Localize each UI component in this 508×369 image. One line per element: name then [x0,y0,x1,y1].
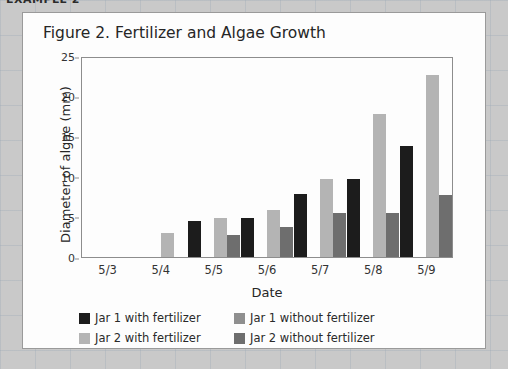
bar [439,195,452,257]
example-heading: EXAMPLE 2 [6,0,80,6]
x-axis-tick-label: 5/7 [294,263,347,277]
bar [347,179,360,257]
legend-swatch [234,313,245,324]
bar [227,235,240,258]
y-axis-tick-mark [75,258,79,259]
bar [320,179,333,257]
legend-swatch [234,333,245,344]
x-axis-tick-label: 5/9 [400,263,453,277]
legend-swatch [79,313,90,324]
chart-legend: Jar 1 with fertilizerJar 1 without ferti… [79,311,439,345]
chart-card: Figure 2. Fertilizer and Algae Growth 05… [22,12,486,349]
y-axis-tick-mark [75,57,79,58]
bar [280,227,293,257]
x-axis-tick-label: 5/3 [81,263,134,277]
x-axis-title: Date [81,285,453,300]
legend-label: Jar 2 with fertilizer [95,331,201,345]
bar [426,75,439,258]
bar [214,218,227,257]
y-axis-tick-label: 25 [61,51,75,64]
x-axis-tick-label: 5/5 [187,263,240,277]
bar [400,146,413,257]
bar [241,218,254,257]
bar-group [346,58,399,257]
bar [161,233,174,257]
y-axis-tick-mark [75,218,79,219]
x-axis-tick-label: 5/4 [134,263,187,277]
y-axis-tick-mark [75,137,79,138]
bar [294,194,307,257]
y-axis-tick-mark [75,178,79,179]
x-axis-tick-label: 5/8 [347,263,400,277]
legend-label: Jar 2 without fertilizer [250,331,374,345]
x-axis-ticks: 5/35/45/55/65/75/85/9 [81,263,453,277]
bar-group [241,58,294,257]
y-axis-title: Diameter of algae (mm) [58,75,73,255]
legend-label: Jar 1 without fertilizer [250,311,374,325]
bar [267,210,280,257]
bar-group [82,58,135,257]
bar [386,213,399,257]
bar-group [135,58,188,257]
legend-item: Jar 1 with fertilizer [79,311,224,325]
bar-group [293,58,346,257]
y-axis-tick-mark [75,97,79,98]
bar-group [399,58,452,257]
bar [188,221,201,257]
chart-title: Figure 2. Fertilizer and Algae Growth [43,24,326,42]
bar-group [188,58,241,257]
legend-item: Jar 2 with fertilizer [79,331,224,345]
plot-area [81,57,453,258]
legend-item: Jar 1 without fertilizer [234,311,439,325]
legend-item: Jar 2 without fertilizer [234,331,439,345]
bar-groups [82,58,452,257]
x-axis-tick-label: 5/6 [240,263,293,277]
bar [373,114,386,257]
legend-label: Jar 1 with fertilizer [95,311,201,325]
legend-swatch [79,333,90,344]
bar [333,213,346,257]
